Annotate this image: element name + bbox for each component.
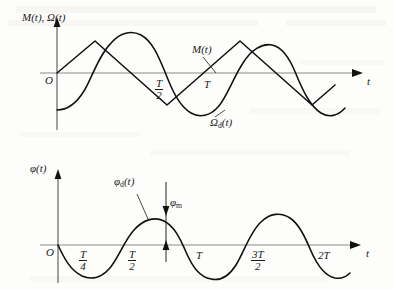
curve-label-phi-d: φd(t) — [114, 176, 134, 188]
amplitude-label-phi-subscript: m — [176, 201, 182, 210]
top-y-axis-label: M(t), Ω(t) — [22, 12, 65, 23]
amplitude-label-phi-m: φm — [170, 197, 182, 209]
top-tick-half-T: T 2 — [155, 78, 163, 101]
top-y-axis-label-m: M(t), — [22, 11, 47, 23]
bottom-x-axis — [40, 241, 361, 249]
curve-label-omega-d: Ωd(t) — [210, 117, 232, 129]
bottom-tick-half-T: T 2 — [128, 249, 136, 272]
bottom-tick-half-T-denominator: 2 — [128, 261, 136, 272]
top-tick-T: T — [204, 79, 210, 90]
bottom-panel — [40, 169, 361, 283]
bottom-origin-label: O — [46, 247, 54, 258]
top-tick-half-T-denominator: 2 — [155, 90, 163, 101]
curve-label-phi-tail: (t) — [124, 175, 134, 187]
phi-m-arrow — [163, 182, 170, 262]
bottom-tick-quarter-T-denominator: 4 — [79, 261, 87, 272]
curve-label-omega-symbol: Ω — [210, 116, 218, 128]
curve-label-omega-tail: (t) — [222, 116, 232, 128]
bottom-y-axis — [55, 169, 62, 283]
top-origin-label: O — [45, 75, 53, 86]
bottom-x-axis-label: t — [366, 248, 369, 259]
bottom-tick-T: T — [196, 250, 202, 261]
top-x-axis-label: t — [367, 76, 370, 87]
bottom-tick-two-T: 2T — [318, 250, 330, 261]
bottom-y-axis-label: φ(t) — [30, 163, 46, 174]
top-x-axis — [40, 69, 363, 77]
bottom-tick-three-half-T-denominator: 2 — [251, 261, 265, 272]
leader-line-m — [203, 57, 216, 73]
bottom-tick-quarter-T: T 4 — [79, 249, 87, 272]
leader-line-phi — [137, 194, 148, 219]
bottom-tick-three-half-T: 3T 2 — [251, 249, 265, 272]
top-y-axis-label-omega: Ω(t) — [47, 11, 65, 23]
curve-label-m: M(t) — [192, 44, 212, 55]
curve-phi-d-of-t — [58, 214, 350, 279]
